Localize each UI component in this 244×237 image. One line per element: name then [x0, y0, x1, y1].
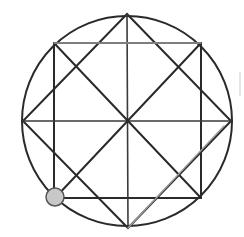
extra-chord: [128, 126, 224, 228]
marker-point[interactable]: [46, 188, 64, 206]
geometry-diagram: [0, 0, 244, 237]
